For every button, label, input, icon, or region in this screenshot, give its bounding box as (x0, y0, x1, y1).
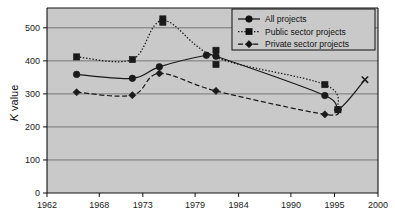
y-axis-title: K value (8, 85, 20, 122)
y-tick-label: 100 (25, 155, 40, 165)
x-tick-label: 1990 (281, 200, 301, 210)
y-tick-label: 400 (25, 56, 40, 66)
data-point-circle (246, 16, 253, 23)
data-point-square (160, 19, 166, 25)
data-point-square (129, 56, 135, 62)
data-point-square (213, 47, 219, 53)
y-tick-label: 300 (25, 89, 40, 99)
data-point-circle (213, 53, 220, 60)
data-point-square (74, 54, 80, 60)
data-point-circle (156, 64, 163, 71)
svg-text:K value: K value (8, 85, 20, 122)
data-point-square (322, 82, 328, 88)
x-tick-label: 1995 (324, 200, 344, 210)
x-tick-label: 1979 (185, 200, 205, 210)
data-point-circle (73, 71, 80, 78)
line-chart: 0100200300400500 19621968197319791984199… (0, 0, 395, 222)
x-tick-label: 2000 (368, 200, 388, 210)
chart-figure: 0100200300400500 19621968197319791984199… (0, 0, 395, 222)
y-axis-ticks: 0100200300400500 (25, 23, 47, 198)
x-axis-ticks: 19621968197319791984199019952000 (37, 193, 388, 210)
y-tick-label: 200 (25, 122, 40, 132)
data-point-square (213, 61, 219, 67)
legend-item-label: Private sector projects (265, 39, 349, 49)
x-tick-label: 1973 (133, 200, 153, 210)
data-point-circle (203, 52, 210, 59)
x-tick-label: 1962 (37, 200, 57, 210)
x-tick-label: 1968 (89, 200, 109, 210)
data-point-square (246, 29, 252, 35)
y-tick-label: 500 (25, 23, 40, 33)
chart-legend: All projectsPublic sector projectsPrivat… (232, 9, 375, 50)
data-point-circle (129, 75, 136, 82)
y-tick-label: 0 (35, 188, 40, 198)
legend-item-label: Public sector projects (265, 27, 346, 37)
y-axis-title-text: value (8, 85, 20, 114)
x-tick-label: 1984 (229, 200, 249, 210)
legend-item-label: All projects (265, 14, 307, 24)
data-point-circle (322, 92, 329, 99)
